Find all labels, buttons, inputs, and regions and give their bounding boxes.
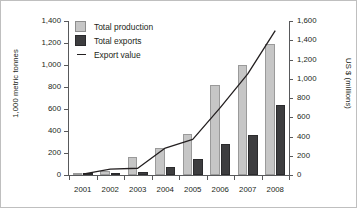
y-axis-left-tick-mark — [64, 109, 68, 110]
y-axis-left-tick-label: 1,400 — [27, 17, 61, 25]
x-axis-tick-label: 2008 — [260, 185, 290, 194]
y-axis-left-tick-label: 1,000 — [27, 61, 61, 69]
x-axis-tick-mark — [152, 176, 153, 180]
y-axis-left-tick-mark — [64, 43, 68, 44]
y-axis-right-tick-mark — [289, 137, 293, 138]
y-axis-right-tick-mark — [289, 79, 293, 80]
x-axis-tick-label: 2004 — [150, 185, 180, 194]
x-axis-tick-label: 2006 — [205, 185, 235, 194]
legend-item-total-exports: Total exports — [75, 34, 153, 47]
chart-container: 1,000 metric tonnes US $ (millions) 0200… — [0, 0, 357, 208]
y-axis-left-tick-mark — [64, 131, 68, 132]
y-axis-right-tick-label: 800 — [297, 94, 337, 102]
legend-label: Total exports — [94, 36, 141, 46]
y-axis-right-tick-mark — [289, 117, 293, 118]
y-axis-left-tick-label: 400 — [27, 127, 61, 135]
y-axis-right-tick-label: 400 — [297, 133, 337, 141]
legend-item-total-production: Total production — [75, 20, 153, 33]
x-axis-tick-mark — [207, 176, 208, 180]
x-axis-tick-mark — [234, 176, 235, 180]
y-axis-right-tick-label: 1,000 — [297, 75, 337, 83]
y-axis-right-tick-label: 0 — [297, 171, 337, 179]
legend-label: Total production — [94, 22, 153, 32]
x-axis-tick-mark — [179, 176, 180, 180]
y-axis-left-tick-label: 1,200 — [27, 39, 61, 47]
y-axis-left-tick-label: 800 — [27, 83, 61, 91]
y-axis-right-tick-label: 600 — [297, 113, 337, 121]
y-axis-right-tick-mark — [289, 21, 293, 22]
y-axis-right-tick-label: 200 — [297, 152, 337, 160]
x-axis-tick-label: 2007 — [233, 185, 263, 194]
y-axis-left-tick-label: 200 — [27, 149, 61, 157]
x-axis-tick-mark — [262, 176, 263, 180]
y-axis-left-tick-mark — [64, 87, 68, 88]
x-axis-tick-label: 2005 — [178, 185, 208, 194]
y-axis-left-tick-mark — [64, 65, 68, 66]
legend-label: Export value — [94, 50, 141, 60]
y-axis-right-tick-label: 1,400 — [297, 36, 337, 44]
y-axis-left-tick-mark — [64, 21, 68, 22]
line-swatch-icon — [75, 49, 86, 60]
y-axis-right-tick-mark — [289, 98, 293, 99]
y-axis-right-title: US $ (millions) — [344, 24, 353, 144]
x-axis-tick-mark — [289, 176, 290, 180]
legend-item-export-value: Export value — [75, 48, 153, 61]
x-axis-tick-label: 2003 — [123, 185, 153, 194]
y-axis-left-tick-label: 0 — [27, 171, 61, 179]
x-axis-tick-label: 2001 — [68, 185, 98, 194]
x-axis-tick-label: 2002 — [95, 185, 125, 194]
y-axis-left-tick-mark — [64, 153, 68, 154]
y-axis-right-tick-label: 1,200 — [297, 56, 337, 64]
square-dark-swatch-icon — [75, 35, 86, 46]
chart-legend: Total production Total exports Export va… — [75, 20, 153, 62]
x-axis-tick-mark — [124, 176, 125, 180]
x-axis-tick-mark — [69, 176, 70, 180]
y-axis-right-tick-mark — [289, 156, 293, 157]
y-axis-left-tick-label: 600 — [27, 105, 61, 113]
y-axis-right-tick-mark — [289, 60, 293, 61]
y-axis-left-tick-mark — [64, 175, 68, 176]
x-axis-tick-mark — [97, 176, 98, 180]
y-axis-left-title: 1,000 metric tonnes — [11, 24, 20, 144]
square-light-swatch-icon — [75, 21, 86, 32]
y-axis-right-tick-label: 1,600 — [297, 17, 337, 25]
y-axis-right-tick-mark — [289, 40, 293, 41]
